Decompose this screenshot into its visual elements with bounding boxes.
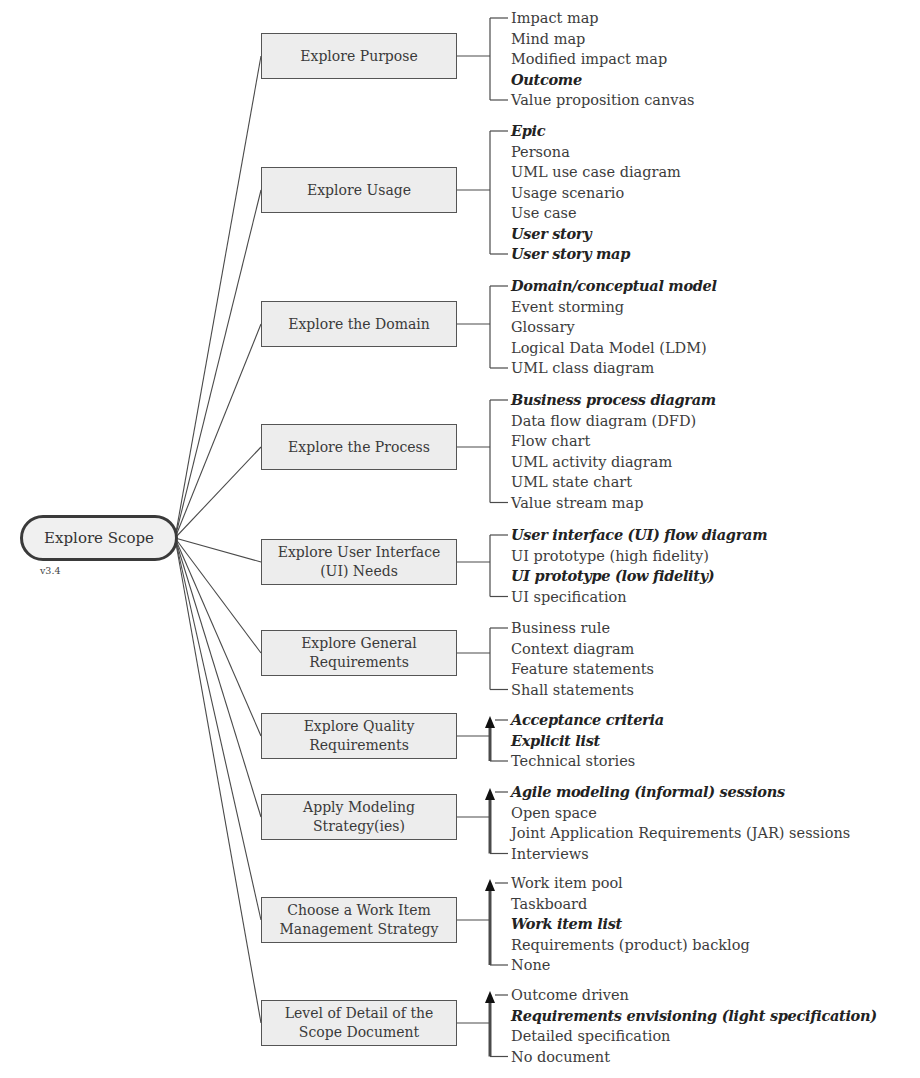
node-label: Explore Quality Requirements (262, 717, 456, 755)
option-item: UI prototype (high fidelity) (511, 546, 709, 566)
node-work-item-management-strategy: Choose a Work Item Management Strategy (261, 897, 457, 943)
node-explore-general-requirements: Explore General Requirements (261, 630, 457, 676)
option-item: Outcome driven (511, 985, 629, 1005)
option-item: Technical stories (511, 751, 635, 771)
option-item: Business rule (511, 618, 610, 638)
node-scope-document-detail: Level of Detail of the Scope Document (261, 1000, 457, 1046)
version-label: v3.4 (40, 565, 60, 576)
option-item: Data flow diagram (DFD) (511, 411, 696, 431)
option-item: UML state chart (511, 472, 632, 492)
option-item: Joint Application Requirements (JAR) ses… (511, 823, 850, 843)
option-item: Open space (511, 803, 597, 823)
option-item: Work item pool (511, 873, 623, 893)
option-item: User story map (511, 244, 630, 264)
node-label: Choose a Work Item Management Strategy (262, 901, 456, 939)
option-item: None (511, 955, 550, 975)
option-item: Business process diagram (511, 390, 716, 410)
node-label: Explore Purpose (300, 47, 417, 66)
node-explore-usage: Explore Usage (261, 167, 457, 213)
option-item: Requirements envisioning (light specific… (511, 1006, 877, 1026)
option-item: Context diagram (511, 639, 634, 659)
option-item: Feature statements (511, 659, 654, 679)
option-item: Usage scenario (511, 183, 624, 203)
node-explore-ui-needs: Explore User Interface (UI) Needs (261, 539, 457, 585)
node-explore-process: Explore the Process (261, 424, 457, 470)
option-item: Event storming (511, 297, 624, 317)
node-label: Explore Usage (307, 181, 411, 200)
option-item: Outcome (511, 70, 582, 90)
option-item: UML class diagram (511, 358, 654, 378)
option-item: UI prototype (low fidelity) (511, 566, 714, 586)
option-item: Flow chart (511, 431, 590, 451)
node-explore-purpose: Explore Purpose (261, 33, 457, 79)
option-item: Interviews (511, 844, 589, 864)
node-label: Explore the Process (288, 438, 430, 457)
option-item: Value proposition canvas (511, 90, 695, 110)
option-item: Work item list (511, 914, 622, 934)
option-item: Detailed specification (511, 1026, 670, 1046)
option-item: No document (511, 1047, 610, 1067)
node-label: Level of Detail of the Scope Document (262, 1004, 456, 1042)
option-item: Persona (511, 142, 570, 162)
option-item: Explicit list (511, 731, 600, 751)
option-item: Acceptance criteria (511, 710, 664, 730)
node-apply-modeling-strategies: Apply Modeling Strategy(ies) (261, 794, 457, 840)
option-item: User story (511, 224, 591, 244)
option-item: Domain/conceptual model (511, 276, 717, 296)
option-item: Requirements (product) backlog (511, 935, 750, 955)
root-node-explore-scope: Explore Scope (20, 515, 178, 561)
root-node-label: Explore Scope (44, 529, 154, 547)
node-label: Explore User Interface (UI) Needs (262, 543, 456, 581)
option-item: Shall statements (511, 680, 634, 700)
option-item: User interface (UI) flow diagram (511, 525, 767, 545)
option-item: UI specification (511, 587, 627, 607)
option-item: Agile modeling (informal) sessions (511, 782, 785, 802)
option-item: UML activity diagram (511, 452, 672, 472)
option-item: Taskboard (511, 894, 587, 914)
option-item: Glossary (511, 317, 575, 337)
option-item: Mind map (511, 29, 585, 49)
option-item: Value stream map (511, 493, 643, 513)
node-explore-domain: Explore the Domain (261, 301, 457, 347)
option-item: Logical Data Model (LDM) (511, 338, 707, 358)
node-label: Explore the Domain (288, 315, 430, 334)
node-explore-quality-requirements: Explore Quality Requirements (261, 713, 457, 759)
option-item: Impact map (511, 8, 599, 28)
option-item: UML use case diagram (511, 162, 681, 182)
option-item: Use case (511, 203, 577, 223)
option-item: Epic (511, 121, 545, 141)
node-label: Apply Modeling Strategy(ies) (262, 798, 456, 836)
node-label: Explore General Requirements (262, 634, 456, 672)
option-item: Modified impact map (511, 49, 667, 69)
goal-diagram: Explore Scope v3.4 Explore PurposeImpact… (0, 0, 920, 1078)
